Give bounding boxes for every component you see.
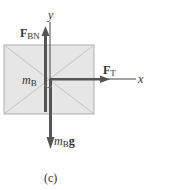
y-axis-label: y [48, 9, 53, 21]
weight-label: mBg [54, 135, 75, 149]
figure-caption: (c) [44, 172, 57, 184]
tension-subscript: T [110, 68, 116, 78]
weight-g-symbol: g [69, 134, 75, 148]
weight-arrow-shaft [49, 79, 52, 139]
mass-subscript: B [31, 78, 37, 88]
weight-mass-symbol: m [54, 134, 63, 148]
normal-force-arrow-shaft [44, 34, 47, 112]
normal-force-label: FBN [20, 27, 40, 41]
x-axis-label: x [138, 73, 143, 85]
mass-label: mB [22, 74, 37, 88]
mass-symbol: m [22, 73, 31, 87]
normal-force-arrowhead-icon [42, 26, 50, 36]
tension-label: FT [103, 64, 116, 78]
tension-arrow-shaft [50, 78, 102, 81]
normal-force-subscript: BN [27, 31, 40, 41]
